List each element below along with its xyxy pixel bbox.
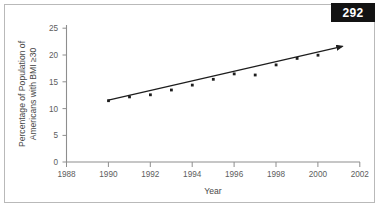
x-tick-label-1988: 1988 (57, 170, 76, 179)
data-point-1995 (212, 78, 215, 81)
data-points (107, 54, 319, 102)
x-tick-label-1996: 1996 (225, 170, 244, 179)
figure-container: 292 25 20 15 10 5 0 (0, 0, 379, 209)
x-axis-title: Year (204, 186, 222, 196)
x-axis-ticks (67, 162, 360, 167)
y-axis-ticks (63, 28, 67, 162)
data-point-1998 (275, 64, 278, 67)
x-tick-label-1992: 1992 (141, 170, 160, 179)
y-axis-title-line2: Americans with BMI ≥30 (28, 47, 38, 140)
chart-plot-area: 25 20 15 10 5 0 1988 1990 1992 1994 1996… (0, 0, 379, 209)
y-tick-label-15: 15 (49, 78, 59, 87)
x-tick-label-1994: 1994 (183, 170, 202, 179)
y-tick-label-25: 25 (49, 24, 59, 33)
data-point-1993 (170, 89, 173, 92)
trend-line (108, 46, 342, 100)
data-point-2000 (317, 54, 320, 57)
y-axis-title-line1: Percentage of Population of (17, 40, 27, 147)
y-tick-label-10: 10 (49, 105, 59, 114)
y-tick-label-20: 20 (49, 51, 59, 60)
y-tick-label-0: 0 (53, 158, 58, 167)
data-point-1992 (149, 93, 152, 96)
y-tick-label-5: 5 (53, 131, 58, 140)
x-tick-label-2002: 2002 (351, 170, 370, 179)
x-tick-label-1998: 1998 (267, 170, 286, 179)
x-tick-label-1990: 1990 (99, 170, 118, 179)
data-point-1994 (191, 84, 194, 87)
x-tick-label-2000: 2000 (309, 170, 328, 179)
data-point-1991 (128, 96, 131, 99)
data-point-1999 (296, 57, 299, 60)
data-point-1997 (254, 74, 257, 77)
data-point-1990 (107, 99, 110, 102)
data-point-1996 (233, 73, 236, 76)
